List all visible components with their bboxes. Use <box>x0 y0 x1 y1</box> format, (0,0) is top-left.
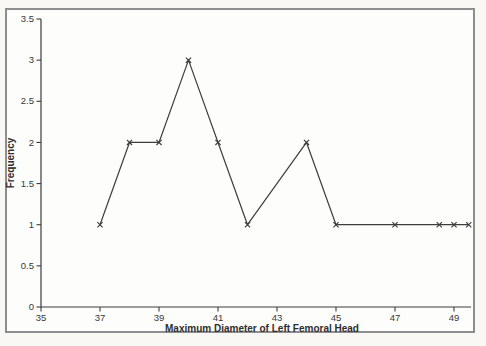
x-tick-label: 47 <box>390 312 401 323</box>
data-point-x-marker <box>215 140 220 145</box>
x-tick-label: 45 <box>331 312 342 323</box>
data-series-layer <box>97 58 471 228</box>
data-point-x-marker <box>186 58 191 63</box>
x-axis-title: Maximum Diameter of Left Femoral Head <box>165 323 359 334</box>
y-tick-label: 0 <box>29 301 34 312</box>
y-tick-label: 2.5 <box>21 95 34 106</box>
data-point-x-marker <box>304 140 309 145</box>
frequency-polygon-chart: 353739414345474900.511.522.533.5 Maximum… <box>0 0 486 346</box>
y-axis-title: Frequency <box>5 137 16 188</box>
frequency-polyline <box>100 60 469 225</box>
y-tick-label: 1.5 <box>21 178 34 189</box>
y-tick-label: 0.5 <box>21 260 34 271</box>
data-point-x-marker <box>97 222 102 227</box>
x-tick-label: 37 <box>95 312 106 323</box>
data-point-x-marker <box>245 222 250 227</box>
x-tick-label: 43 <box>272 312 283 323</box>
x-tick-label: 49 <box>449 312 460 323</box>
y-tick-label: 2 <box>29 137 34 148</box>
axis-lines <box>41 19 471 307</box>
y-tick-label: 3 <box>29 54 34 65</box>
axes-layer: 353739414345474900.511.522.533.5 <box>21 13 471 322</box>
x-tick-label: 39 <box>154 312 165 323</box>
x-tick-label: 41 <box>213 312 224 323</box>
x-tick-label: 35 <box>36 312 47 323</box>
scanned-chart-page: 353739414345474900.511.522.533.5 Maximum… <box>0 0 486 346</box>
y-tick-label: 3.5 <box>21 13 34 24</box>
y-tick-label: 1 <box>29 219 34 230</box>
